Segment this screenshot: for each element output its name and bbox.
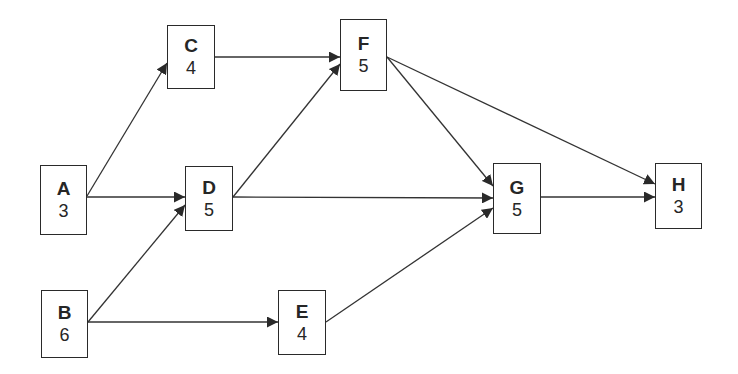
activity-duration: 4 <box>186 57 196 79</box>
activity-node-g: G 5 <box>493 163 541 234</box>
activity-duration: 3 <box>673 196 683 218</box>
activity-node-d: D 5 <box>185 166 233 231</box>
activity-label: D <box>202 177 216 199</box>
activity-node-b: B 6 <box>41 290 88 358</box>
activity-node-e: E 4 <box>278 290 326 355</box>
activity-label: H <box>672 174 686 196</box>
activity-label: F <box>358 33 370 55</box>
activity-duration: 3 <box>58 200 68 222</box>
edge-d-to-f-arrow <box>233 64 340 197</box>
edge-f-to-g-arrow <box>387 57 493 186</box>
edge-d-to-g-arrow <box>233 197 493 198</box>
edge-e-to-g-arrow <box>326 208 493 322</box>
activity-duration: 6 <box>59 324 69 346</box>
activity-label: G <box>510 177 525 199</box>
edge-b-to-d-arrow <box>88 205 185 322</box>
activity-label: A <box>57 178 71 200</box>
activity-duration: 5 <box>358 55 368 77</box>
activity-duration: 5 <box>204 199 214 221</box>
activity-node-a: A 3 <box>40 165 87 235</box>
edge-a-to-c-arrow <box>87 63 167 196</box>
activity-node-h: H 3 <box>655 163 702 229</box>
activity-duration: 5 <box>512 199 522 221</box>
activity-duration: 4 <box>297 323 307 345</box>
edges-layer <box>87 57 655 322</box>
activity-node-f: F 5 <box>340 19 387 91</box>
activity-label: B <box>58 302 72 324</box>
activity-label: C <box>184 35 198 57</box>
activity-node-c: C 4 <box>167 25 215 89</box>
activity-label: E <box>296 301 309 323</box>
